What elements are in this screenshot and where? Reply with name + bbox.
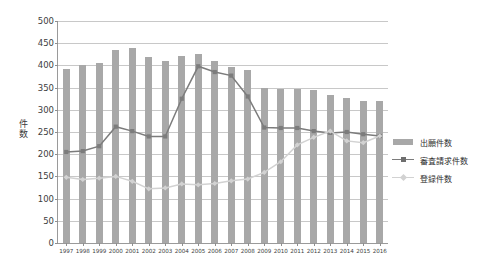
x-tick-mark bbox=[182, 243, 183, 246]
x-tick-label: 2010 bbox=[274, 248, 288, 254]
plot-area: 050100150200250300350400450500 199719981… bbox=[57, 21, 388, 244]
legend-item-exam-requests: 審査請求件数 bbox=[392, 151, 488, 169]
y-tick-label: 400 bbox=[38, 60, 54, 70]
chart-legend: 出願件数 審査請求件数 登録件数 bbox=[392, 133, 488, 187]
x-tick-label: 1998 bbox=[76, 248, 90, 254]
x-tick-label: 2013 bbox=[323, 248, 337, 254]
x-tick-mark bbox=[330, 243, 331, 246]
x-tick-label: 2004 bbox=[175, 248, 189, 254]
y-tick-label: 500 bbox=[38, 16, 54, 26]
x-tick-mark bbox=[116, 243, 117, 246]
x-tick-mark bbox=[281, 243, 282, 246]
x-tick-mark bbox=[132, 243, 133, 246]
x-tick-mark bbox=[248, 243, 249, 246]
x-tick-label: 2003 bbox=[158, 248, 172, 254]
y-axis-title: 件 数 bbox=[16, 119, 30, 139]
y-tick-label: 100 bbox=[38, 194, 54, 204]
y-tick-label: 350 bbox=[38, 83, 54, 93]
x-tick-label: 1999 bbox=[92, 248, 106, 254]
x-tick-label: 2002 bbox=[142, 248, 156, 254]
x-tick-mark bbox=[347, 243, 348, 246]
legend-item-registrations: 登録件数 bbox=[392, 169, 488, 187]
x-tick-mark bbox=[66, 243, 67, 246]
x-tick-label: 2011 bbox=[290, 248, 304, 254]
x-tick-mark bbox=[83, 243, 84, 246]
x-tick-label: 2009 bbox=[257, 248, 271, 254]
legend-label-exam-requests: 審査請求件数 bbox=[420, 155, 468, 166]
x-tick-mark bbox=[264, 243, 265, 246]
x-tick-label: 2014 bbox=[340, 248, 354, 254]
legend-label-registrations: 登録件数 bbox=[420, 173, 452, 184]
x-tick-label: 2015 bbox=[356, 248, 370, 254]
y-tick-label: 150 bbox=[38, 171, 54, 181]
y-tick-label: 300 bbox=[38, 105, 54, 115]
x-tick-label: 2006 bbox=[208, 248, 222, 254]
x-tick-label: 2001 bbox=[125, 248, 139, 254]
y-axis-title-char-2: 数 bbox=[16, 129, 30, 139]
x-tick-mark bbox=[99, 243, 100, 246]
x-tick-mark bbox=[363, 243, 364, 246]
legend-label-applications: 出願件数 bbox=[420, 137, 452, 148]
chart-container: 件 数 050100150200250300350400450500 19971… bbox=[0, 0, 492, 269]
x-tick-label: 2000 bbox=[109, 248, 123, 254]
x-tick-mark bbox=[215, 243, 216, 246]
x-tick-mark bbox=[380, 243, 381, 246]
x-tick-label: 2012 bbox=[307, 248, 321, 254]
x-tick-label: 2007 bbox=[224, 248, 238, 254]
x-tick-mark bbox=[149, 243, 150, 246]
y-tick-label: 0 bbox=[49, 238, 54, 248]
y-tick-label: 200 bbox=[38, 149, 54, 159]
x-tick-label: 2005 bbox=[191, 248, 205, 254]
legend-line-light-icon bbox=[392, 172, 414, 184]
y-tick-label: 450 bbox=[38, 38, 54, 48]
legend-swatch-bar-icon bbox=[392, 136, 414, 148]
x-tick-mark bbox=[198, 243, 199, 246]
y-tick-label: 50 bbox=[43, 216, 54, 226]
x-tick-mark bbox=[231, 243, 232, 246]
x-tick-mark bbox=[165, 243, 166, 246]
y-axis-title-char-1: 件 bbox=[16, 119, 30, 129]
x-tick-label: 2016 bbox=[373, 248, 387, 254]
x-axis-labels: 1997199819992000200120022003200420052006… bbox=[58, 21, 388, 243]
y-tick-mark bbox=[55, 243, 58, 244]
x-tick-mark bbox=[314, 243, 315, 246]
legend-item-applications: 出願件数 bbox=[392, 133, 488, 151]
y-tick-label: 250 bbox=[38, 127, 54, 137]
legend-line-dark-icon bbox=[392, 154, 414, 166]
x-tick-mark bbox=[297, 243, 298, 246]
x-tick-label: 2008 bbox=[241, 248, 255, 254]
x-tick-label: 1997 bbox=[59, 248, 73, 254]
